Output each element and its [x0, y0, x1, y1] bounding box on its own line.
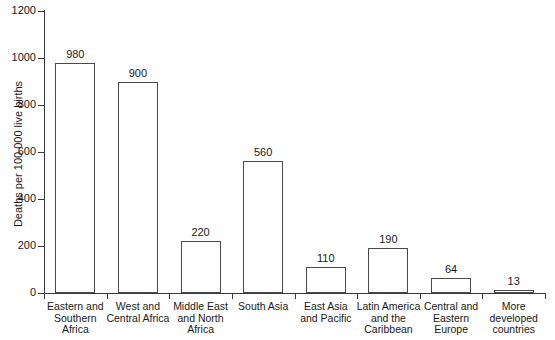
x-axis-tick-mark — [420, 294, 421, 299]
bar — [306, 267, 346, 293]
category-label-line: East Asia — [291, 301, 362, 313]
x-axis-tick-mark — [545, 294, 546, 299]
category-label-line: Caribbean — [353, 324, 424, 336]
x-axis-tick-mark — [357, 294, 358, 299]
x-axis-category-label: Moredevelopedcountries — [478, 301, 549, 336]
bar-value-label: 980 — [45, 49, 105, 60]
bar — [494, 290, 534, 293]
bar — [431, 278, 471, 293]
bar-chart: Deaths per 100 000 live births 020040060… — [0, 0, 555, 340]
bar — [181, 241, 221, 293]
category-label-line: Middle East — [165, 301, 236, 313]
bar — [118, 82, 158, 294]
x-axis-category-label: South Asia — [228, 301, 299, 313]
y-axis-tick-label: 600 — [2, 146, 36, 157]
x-axis-tick-mark — [44, 294, 45, 299]
category-label-line: Latin America — [353, 301, 424, 313]
x-axis-category-label: Middle Eastand NorthAfrica — [165, 301, 236, 336]
category-label-line: Europe — [416, 324, 487, 336]
bar-value-label: 110 — [296, 253, 356, 264]
x-axis-category-label: West andCentral Africa — [103, 301, 174, 324]
y-axis-tick-label: 1200 — [2, 5, 36, 16]
category-label-line: and Pacific — [291, 313, 362, 325]
bar-value-label: 64 — [421, 264, 481, 275]
category-label-line: Central and — [416, 301, 487, 313]
x-axis-tick-mark — [232, 294, 233, 299]
y-axis-tick-label: 0 — [2, 287, 36, 298]
bar — [243, 161, 283, 293]
category-label-line: countries — [478, 324, 549, 336]
category-label-line: More — [478, 301, 549, 313]
x-axis-tick-mark — [295, 294, 296, 299]
x-axis-category-label: Central andEasternEurope — [416, 301, 487, 336]
y-axis-tick-label: 200 — [2, 240, 36, 251]
bar-value-label: 220 — [171, 227, 231, 238]
category-label-line: Africa — [40, 324, 111, 336]
category-label-line: South Asia — [228, 301, 299, 313]
bar-value-label: 900 — [108, 68, 168, 79]
bar-value-label: 190 — [358, 234, 418, 245]
y-axis-tick-label: 400 — [2, 193, 36, 204]
x-axis-tick-mark — [482, 294, 483, 299]
category-label-line: Africa — [165, 324, 236, 336]
y-axis-tick-labels: 020040060080010001200 — [0, 0, 36, 340]
bar-value-label: 13 — [484, 276, 544, 287]
category-label-line: West and — [103, 301, 174, 313]
x-axis-category-label: Eastern andSouthernAfrica — [40, 301, 111, 336]
bar — [368, 248, 408, 293]
x-axis-category-label: East Asiaand Pacific — [291, 301, 362, 324]
x-axis-category-label: Latin Americaand theCaribbean — [353, 301, 424, 336]
y-axis-tick-label: 1000 — [2, 52, 36, 63]
x-axis-tick-mark — [107, 294, 108, 299]
bar — [55, 63, 95, 293]
category-label-line: Central Africa — [103, 313, 174, 325]
bar-value-label: 560 — [233, 147, 293, 158]
category-label-line: Eastern and — [40, 301, 111, 313]
x-axis-tick-mark — [169, 294, 170, 299]
y-axis-tick-label: 800 — [2, 99, 36, 110]
